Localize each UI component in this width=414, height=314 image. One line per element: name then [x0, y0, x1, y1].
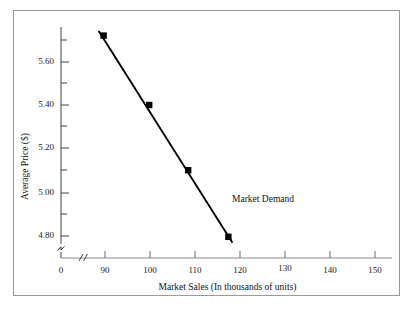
x-tick-label-120: 120: [226, 265, 254, 275]
demand-line: [99, 32, 232, 243]
data-point-marker: [225, 234, 231, 240]
x-origin-label: 0: [51, 265, 71, 275]
data-point-marker: [146, 102, 152, 108]
y-major-ticks: [61, 62, 69, 236]
data-point-marker: [185, 167, 191, 173]
y-axis-title: Average Price ($): [20, 133, 30, 200]
y-minor-ticks: [61, 40, 67, 214]
market-demand-annotation: Market Demand: [232, 194, 294, 204]
x-tick-label-150: 150: [361, 265, 389, 275]
x-tick-label-140: 140: [316, 265, 344, 275]
y-tick-label-500: 5.00: [26, 187, 54, 197]
x-tick-label-130: 130: [271, 263, 299, 273]
x-axis-title: Market Sales (In thousands of units): [110, 282, 345, 292]
data-point-marker: [100, 32, 106, 38]
x-tick-label-110: 110: [181, 265, 209, 275]
chart-screenshot: 5.60 5.40 5.20 5.00 4.80 0 90 100 110 12…: [0, 0, 414, 314]
y-tick-label-520: 5.20: [26, 142, 54, 152]
y-axis-break-icon: [58, 246, 65, 250]
x-tick-label-90: 90: [91, 265, 119, 275]
x-major-ticks: [105, 251, 375, 258]
x-tick-label-100: 100: [136, 265, 164, 275]
y-tick-label-560: 5.60: [26, 56, 54, 66]
y-tick-label-540: 5.40: [26, 99, 54, 109]
y-tick-label-480: 4.80: [26, 230, 54, 240]
